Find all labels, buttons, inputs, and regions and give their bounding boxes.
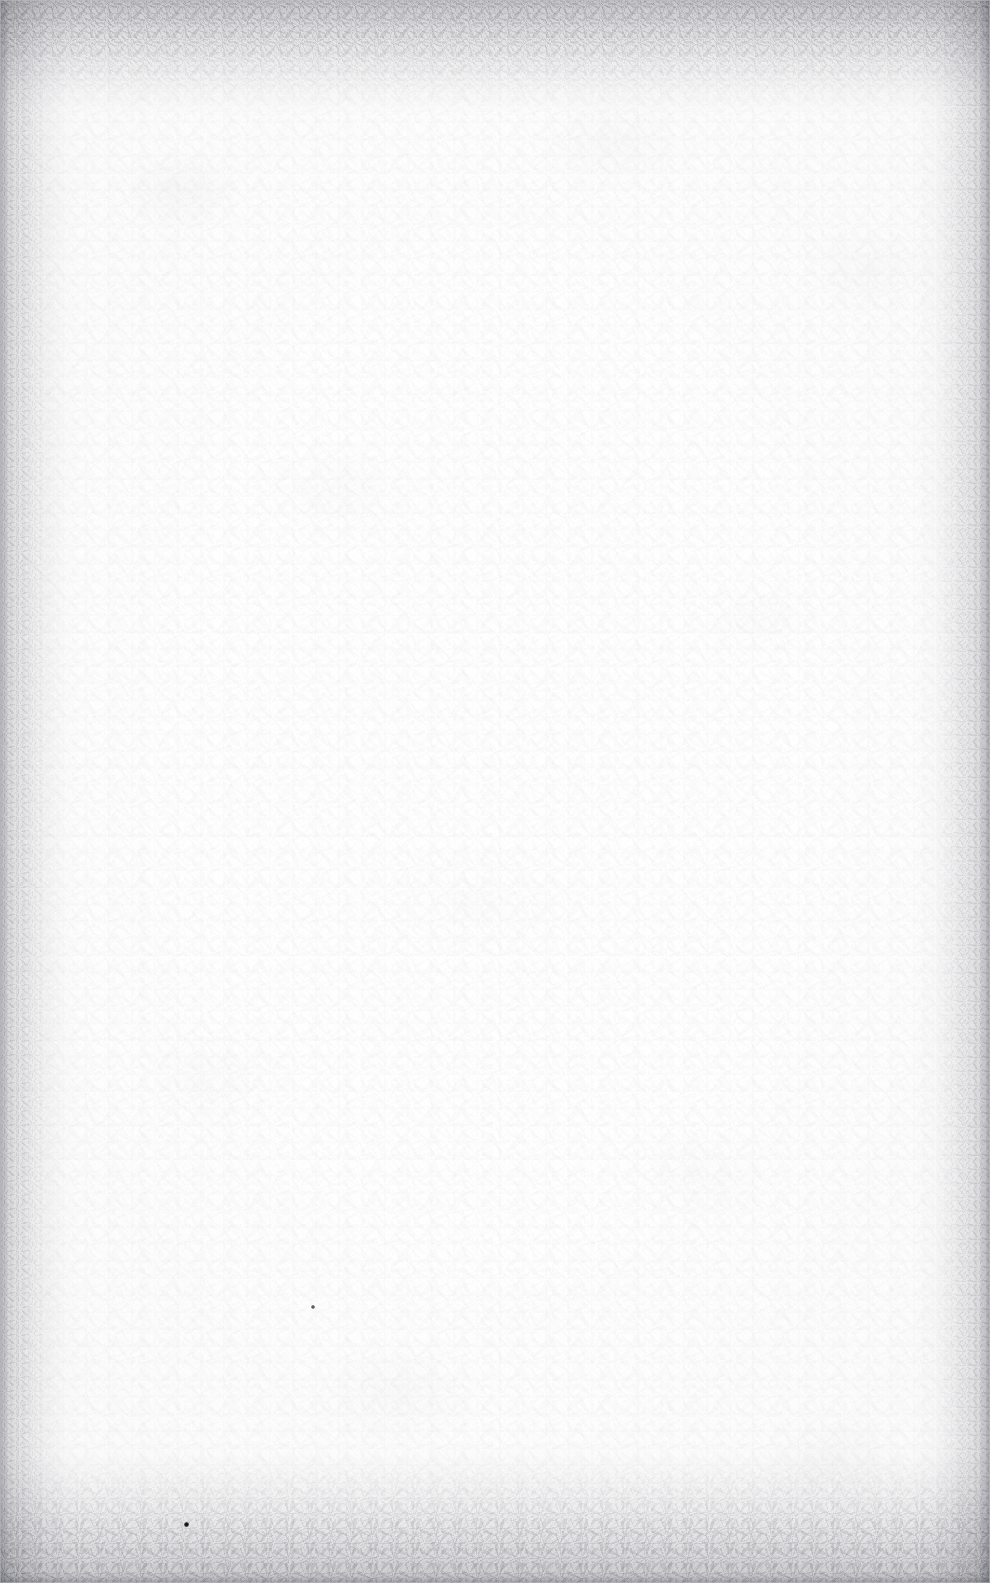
scanned-page — [0, 0, 990, 1583]
page-text-content — [0, 0, 990, 1583]
